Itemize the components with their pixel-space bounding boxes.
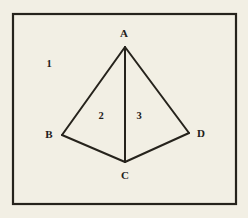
vertex-label-c: C <box>121 170 129 181</box>
region-label-2: 2 <box>98 111 103 122</box>
vertex-label-a: A <box>120 28 128 39</box>
region-label-1: 1 <box>46 59 51 70</box>
vertex-label-d: D <box>197 128 205 139</box>
figure-page: A B C D 1 2 3 <box>0 0 248 218</box>
vertex-label-b: B <box>45 129 52 140</box>
region-label-3: 3 <box>136 111 141 122</box>
